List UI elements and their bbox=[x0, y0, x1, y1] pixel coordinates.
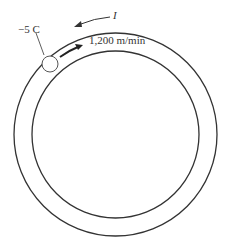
inner-ring bbox=[32, 51, 199, 218]
speed-label: 1,200 m/min bbox=[89, 34, 146, 46]
ring-diagram: −5 C 1,200 m/min I bbox=[0, 0, 229, 247]
charge-ball bbox=[42, 56, 58, 72]
charge-label: −5 C bbox=[18, 23, 40, 35]
current-arrowhead-icon bbox=[74, 21, 82, 27]
charge-leader-line bbox=[36, 33, 44, 55]
current-arrow bbox=[78, 17, 110, 25]
current-label: I bbox=[112, 9, 118, 21]
